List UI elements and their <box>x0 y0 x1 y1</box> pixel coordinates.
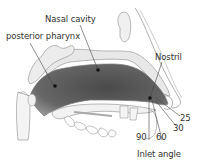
angle-90-label: 90 <box>136 133 147 142</box>
nostril-label: Nostril <box>155 53 182 62</box>
nasal-cavity-label: Nasal cavity <box>45 15 96 24</box>
anatomy-drawing <box>0 0 199 167</box>
inlet-angle-label: Inlet angle <box>137 150 181 159</box>
posterior-pharynx-label: posterior pharynx <box>6 32 80 41</box>
nasal-airway-diagram: Nasal cavity posterior pharynx Nostril 2… <box>0 0 199 167</box>
angle-60-label: 60 <box>156 133 167 142</box>
angle-30-label: 30 <box>173 124 184 133</box>
angle-25-label: 25 <box>180 114 191 123</box>
